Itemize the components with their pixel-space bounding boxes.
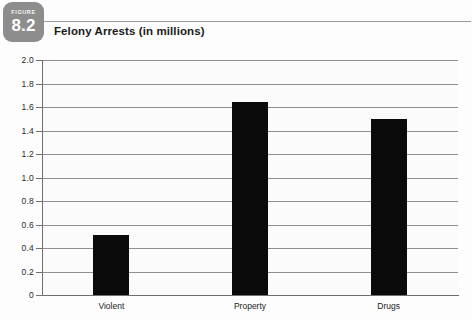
- y-axis-tick: [36, 272, 42, 273]
- x-axis-line: [42, 295, 459, 296]
- gridline: [42, 60, 458, 61]
- y-axis-tick-label: 0: [0, 290, 34, 300]
- y-axis-tick-label: 1.8: [0, 79, 34, 89]
- y-axis-tick-label: 0.6: [0, 220, 34, 230]
- x-axis-tick-label: Violent: [98, 301, 124, 311]
- y-axis-tick-label: 1.0: [0, 173, 34, 183]
- x-axis-tick-label: Property: [234, 301, 266, 311]
- y-axis-tick: [36, 178, 42, 179]
- y-axis-tick: [36, 248, 42, 249]
- y-axis-tick-label: 0.2: [0, 267, 34, 277]
- y-axis-tick-labels: 2.01.81.61.41.21.00.80.60.40.20: [0, 0, 34, 320]
- bar-drugs: [371, 119, 407, 295]
- y-axis-tick: [36, 107, 42, 108]
- y-axis-tick-label: 1.6: [0, 102, 34, 112]
- y-axis-tick: [36, 131, 42, 132]
- y-axis-tick-label: 0.4: [0, 243, 34, 253]
- bar-violent: [93, 235, 129, 295]
- gridline: [42, 84, 458, 85]
- y-axis-tick: [36, 84, 42, 85]
- x-axis-tick-label: Drugs: [377, 301, 400, 311]
- bar-chart: 2.01.81.61.41.21.00.80.60.40.20 ViolentP…: [0, 0, 472, 320]
- y-axis-tick: [36, 295, 42, 296]
- plot-area: [42, 60, 458, 295]
- y-axis-tick: [36, 225, 42, 226]
- bar-property: [232, 102, 268, 295]
- y-axis-tick: [36, 60, 42, 61]
- y-axis-tick-label: 1.2: [0, 149, 34, 159]
- y-axis-tick-label: 0.8: [0, 196, 34, 206]
- y-axis-tick-label: 2.0: [0, 55, 34, 65]
- figure-container: FIGURE 8.2 Felony Arrests (in millions) …: [0, 0, 472, 320]
- y-axis-tick: [36, 154, 42, 155]
- y-axis-line: [42, 60, 43, 296]
- y-axis-tick-label: 1.4: [0, 126, 34, 136]
- y-axis-tick: [36, 201, 42, 202]
